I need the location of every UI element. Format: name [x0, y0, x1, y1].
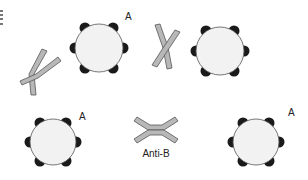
cell-top-left — [70, 23, 129, 74]
cell-bottom-left — [25, 118, 82, 167]
cell-top-right — [191, 26, 250, 77]
cell-label-a: A — [79, 111, 86, 122]
antibody-top-middle-icon — [152, 24, 180, 69]
antibody-anti-b-icon — [134, 117, 178, 143]
cell-bottom-right — [228, 118, 285, 167]
diagram-canvas: A A Anti-B A — [0, 0, 308, 180]
antibody-top-left-icon — [20, 49, 61, 95]
antibody-label-anti-b: Anti-B — [142, 148, 170, 159]
cut-off-text-fragment — [0, 10, 3, 25]
cell-label-a: A — [288, 107, 295, 118]
cell-label-a: A — [125, 11, 132, 22]
